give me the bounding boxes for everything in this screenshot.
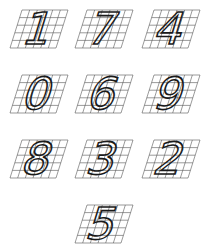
digit-glyph: 5 <box>81 198 125 250</box>
digit-glyph: 3 <box>81 133 125 185</box>
digit-template-3: 3 <box>75 133 133 185</box>
digit-glyph: 0 <box>17 68 61 120</box>
digit-glyph: 9 <box>149 68 193 120</box>
digit-glyph: 6 <box>82 68 126 120</box>
digit-template-4: 4 <box>142 3 200 55</box>
digit-template-6: 6 <box>75 68 133 120</box>
digit-glyph: 2 <box>148 133 192 185</box>
digit-template-1: 1 <box>10 3 68 55</box>
digit-template-5: 5 <box>75 198 133 250</box>
digit-template-7: 7 <box>75 3 133 55</box>
digit-template-9: 9 <box>142 68 200 120</box>
digit-template-0: 0 <box>10 68 68 120</box>
digit-template-2: 2 <box>142 133 200 185</box>
digit-template-8: 8 <box>10 133 68 185</box>
digit-glyph: 8 <box>16 133 60 185</box>
digit-templates-diagram: 1740698325 <box>0 0 213 250</box>
